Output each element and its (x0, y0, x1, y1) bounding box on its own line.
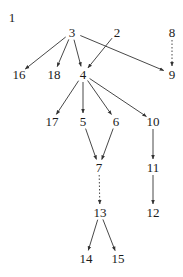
node-1: 1 (9, 10, 16, 25)
node-7: 7 (96, 160, 103, 175)
edge-13-to-15 (103, 219, 115, 250)
node-10: 10 (147, 114, 160, 129)
node-18: 18 (48, 67, 61, 82)
node-11: 11 (147, 160, 160, 175)
node-13: 13 (94, 205, 107, 220)
edge-2-to-4 (88, 38, 112, 68)
node-8: 8 (169, 25, 176, 40)
edge-13-to-14 (88, 220, 97, 251)
edge-4-to-17 (56, 81, 78, 115)
edge-3-to-9 (80, 36, 163, 71)
node-12: 12 (147, 205, 160, 220)
edge-7-to-13 (99, 175, 100, 204)
node-15: 15 (112, 251, 125, 266)
node-14: 14 (80, 251, 94, 266)
edge-3-to-4 (74, 40, 81, 67)
edge-4-to-10 (90, 79, 147, 117)
node-9: 9 (169, 67, 176, 82)
node-4: 4 (80, 67, 87, 82)
node-5: 5 (80, 114, 87, 129)
nodes-layer: 123456789101112131415161718 (9, 10, 176, 266)
edge-3-to-16 (25, 37, 65, 69)
node-17: 17 (46, 114, 60, 129)
node-16: 16 (13, 67, 27, 82)
node-2: 2 (114, 25, 121, 40)
node-3: 3 (69, 25, 76, 40)
dependency-graph: 123456789101112131415161718 (0, 0, 183, 277)
edge-5-to-7 (86, 129, 97, 160)
node-6: 6 (113, 114, 120, 129)
edge-6-to-7 (102, 129, 113, 160)
edge-3-to-18 (57, 39, 69, 66)
